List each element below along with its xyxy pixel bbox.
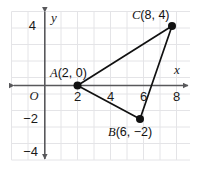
point-b-dot [136,115,144,123]
y-tick-minus-4: −4 [23,144,38,159]
x-axis-label: x [173,62,180,77]
y-tick-4: 4 [29,18,36,33]
coordinate-plane-svg: x y O 2 4 6 8 4 −2 −4 A(2, 0) B(6, −2) C… [0,0,197,169]
point-b-label: B(6, −2) [108,125,152,139]
x-tick-2: 2 [74,89,81,104]
point-b-coords: (6, −2) [116,125,152,139]
point-a-dot [74,82,82,90]
origin-label: O [29,89,38,103]
point-c-label: C(8, 4) [132,8,170,22]
point-a-label: A(2, 0) [49,66,87,80]
point-a-coords: (2, 0) [58,66,87,80]
y-tick-minus-2: −2 [23,111,38,126]
x-tick-8: 8 [173,89,180,104]
coordinate-plane-figure: x y O 2 4 6 8 4 −2 −4 A(2, 0) B(6, −2) C… [0,0,197,169]
point-c-dot [168,22,176,30]
point-a-letter: A [49,66,58,80]
y-axis-label: y [49,10,57,25]
point-c-coords: (8, 4) [140,8,169,22]
